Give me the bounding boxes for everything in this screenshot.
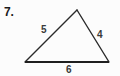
problem-number: 7.	[4, 5, 14, 19]
triangle-figure: 7. 5 4 6	[0, 0, 120, 76]
triangle-right-side	[77, 10, 109, 62]
triangle-left-side	[25, 10, 77, 62]
base-length-label: 6	[66, 65, 72, 75]
right-side-length-label: 4	[97, 30, 103, 40]
left-side-length-label: 5	[41, 25, 47, 35]
